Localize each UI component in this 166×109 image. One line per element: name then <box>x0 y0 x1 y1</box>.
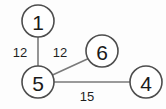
node-1-label: 1 <box>32 11 44 34</box>
node-4[interactable]: 4 <box>130 66 162 98</box>
node-6[interactable]: 6 <box>86 35 118 67</box>
node-5-label: 5 <box>32 72 44 95</box>
graph-canvas: 1 6 5 4 12 12 15 <box>0 0 166 109</box>
edge-weight-5-6: 12 <box>53 45 67 60</box>
edge-weight-5-4: 15 <box>80 89 94 104</box>
edge-5-6 <box>53 59 89 76</box>
nodes-group: 1 6 5 4 <box>22 5 162 98</box>
edge-weight-1-5: 12 <box>13 45 27 60</box>
node-5[interactable]: 5 <box>22 66 54 98</box>
node-1[interactable]: 1 <box>22 5 54 37</box>
node-4-label: 4 <box>140 72 152 95</box>
graph-diagram: 1 6 5 4 12 12 15 <box>0 0 166 109</box>
node-6-label: 6 <box>96 41 108 64</box>
